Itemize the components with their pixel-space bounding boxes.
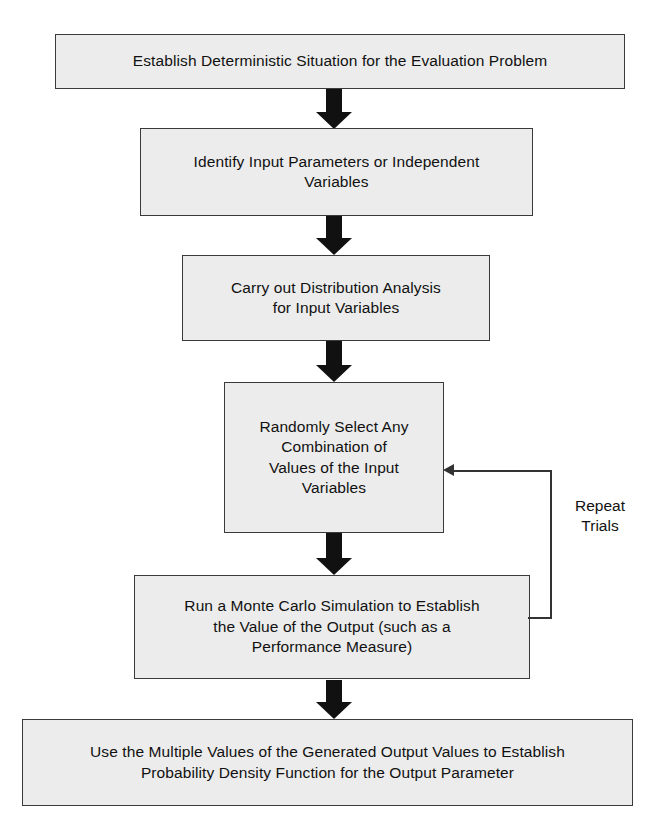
flowchart-node-step-1-label: Establish Deterministic Situation for th… [64, 51, 616, 71]
arrow-shaft [326, 680, 342, 702]
flowchart-node-step-2-label: Identify Input Parameters or Independent… [149, 152, 524, 193]
flowchart-node-step-4-label: Randomly Select Any Combination of Value… [233, 417, 435, 499]
connector-arrow-step-2-to-step-3 [316, 216, 352, 256]
flowchart-node-step-2: Identify Input Parameters or Independent… [140, 128, 533, 216]
repeat-loop-segment-top [452, 470, 552, 472]
flowchart-node-step-6: Use the Multiple Values of the Generated… [22, 719, 633, 806]
repeat-loop-arrow-head-icon [443, 464, 454, 476]
arrow-head-icon [316, 112, 352, 129]
flowchart-node-step-3: Carry out Distribution Analysis for Inpu… [182, 255, 490, 341]
connector-arrow-step-4-to-step-5 [316, 533, 352, 576]
arrow-head-icon [316, 702, 352, 719]
arrow-head-icon [316, 238, 352, 255]
connector-arrow-step-1-to-step-2 [316, 89, 352, 129]
flowchart-node-step-3-label: Carry out Distribution Analysis for Inpu… [191, 278, 481, 319]
arrow-shaft [326, 216, 342, 238]
repeat-loop-segment-bottom [528, 617, 552, 619]
flowchart-canvas: Establish Deterministic Situation for th… [0, 0, 655, 830]
arrow-shaft [326, 341, 342, 365]
repeat-trials-label: Repeat Trials [552, 496, 648, 537]
connector-arrow-step-3-to-step-4 [316, 341, 352, 383]
connector-arrow-step-5-to-step-6 [316, 680, 352, 720]
arrow-head-icon [316, 558, 352, 575]
arrow-head-icon [316, 365, 352, 382]
arrow-shaft [326, 89, 342, 112]
flowchart-node-step-4: Randomly Select Any Combination of Value… [224, 382, 444, 533]
flowchart-node-step-1: Establish Deterministic Situation for th… [55, 34, 625, 89]
flowchart-node-step-6-label: Use the Multiple Values of the Generated… [31, 742, 624, 783]
flowchart-node-step-5: Run a Monte Carlo Simulation to Establis… [134, 575, 530, 679]
arrow-shaft [326, 533, 342, 558]
repeat-loop-segment-right [550, 470, 552, 619]
flowchart-node-step-5-label: Run a Monte Carlo Simulation to Establis… [143, 596, 521, 657]
